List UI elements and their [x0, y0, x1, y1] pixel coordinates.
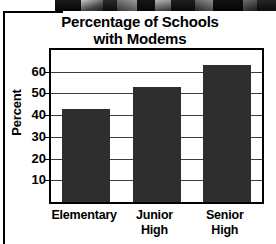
y-axis-tick-label: 10	[18, 175, 46, 185]
bar	[203, 65, 251, 202]
photo-fragment-block	[117, 0, 137, 11]
chart-title: Percentage of Schools with Modems	[14, 13, 266, 47]
chart-title-line-2: with Modems	[14, 30, 266, 47]
chart-page: Percentage of Schools with Modems Percen…	[0, 0, 276, 244]
x-axis-tick-label-line: Junior	[121, 208, 187, 223]
x-axis-tick-labels: ElementaryJuniorHighSeniorHigh	[49, 208, 264, 244]
y-axis-tick-mark	[45, 159, 51, 160]
photo-fragment-block	[103, 0, 117, 11]
photo-fragment-block	[213, 0, 243, 11]
chart-title-line-1: Percentage of Schools	[61, 13, 219, 30]
photo-fragment-block	[195, 0, 213, 11]
y-axis-tick-mark	[45, 180, 51, 181]
photo-strip-fragment	[55, 0, 276, 11]
y-axis-tick-label: 40	[18, 110, 46, 120]
y-axis-tick-mark	[45, 93, 51, 94]
y-axis-tick-mark	[45, 115, 51, 116]
y-axis-tick-labels: 102030405060	[18, 48, 46, 204]
x-axis-tick-label-line: Elementary	[51, 208, 117, 223]
y-axis-tick-label: 30	[18, 132, 46, 142]
photo-fragment-block	[155, 0, 171, 11]
x-axis-tick-label: JuniorHigh	[121, 208, 187, 238]
y-axis-tick-mark	[45, 137, 51, 138]
photo-fragment-block	[243, 0, 257, 11]
x-axis-tick-label-line: Senior	[192, 208, 258, 223]
y-axis-tick-label: 60	[18, 67, 46, 77]
y-axis-tick-mark	[45, 72, 51, 73]
photo-fragment-block	[55, 0, 81, 11]
page-border-left	[3, 11, 5, 244]
photo-fragment-block	[171, 0, 195, 11]
x-axis-tick-label-line: High	[192, 223, 258, 238]
bar	[62, 109, 110, 202]
photo-fragment-block	[81, 0, 103, 11]
y-axis-tick-label: 20	[18, 154, 46, 164]
plot-inner	[51, 50, 262, 202]
photo-fragment-block	[137, 0, 155, 11]
plot-area	[49, 48, 264, 204]
x-axis-tick-label-line: High	[121, 223, 187, 238]
bar	[133, 87, 181, 202]
photo-fragment-block	[257, 0, 276, 11]
x-axis-tick-label: SeniorHigh	[192, 208, 258, 238]
x-axis-tick-label: Elementary	[51, 208, 117, 223]
y-axis-tick-label: 50	[18, 88, 46, 98]
